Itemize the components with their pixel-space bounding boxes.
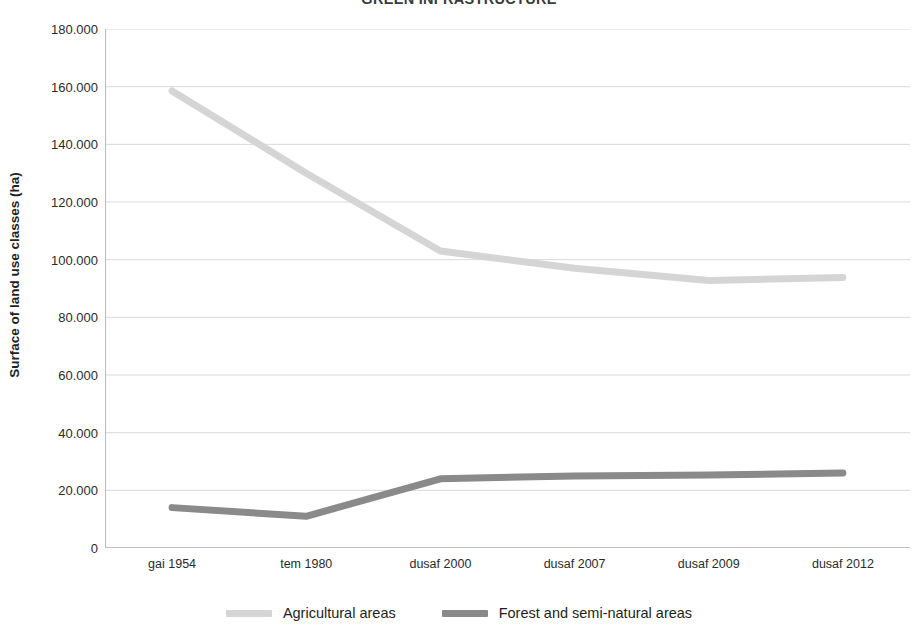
legend-swatch-icon	[442, 610, 488, 617]
legend-label: Forest and semi-natural areas	[499, 605, 692, 621]
legend-item-1[interactable]: Agricultural areas	[226, 605, 396, 621]
y-axis-tick-labels: 180.000160.000140.000120.000100.00080.00…	[6, 29, 98, 548]
series-lines	[172, 91, 843, 516]
axis-lines	[105, 29, 910, 548]
chart-title: GREEN INFRASTRUCTURE	[0, 0, 918, 7]
legend-label: Agricultural areas	[283, 605, 396, 621]
y-tick-label: 20.000	[12, 483, 98, 498]
y-tick-label: 120.000	[12, 195, 98, 210]
y-tick-label: 40.000	[12, 425, 98, 440]
chart-legend: Agricultural areasForest and semi-natura…	[0, 605, 918, 621]
y-tick-label: 60.000	[12, 368, 98, 383]
legend-item-2[interactable]: Forest and semi-natural areas	[442, 605, 692, 621]
series-line-2	[172, 473, 843, 516]
y-tick-label: 0	[12, 541, 98, 556]
green-infrastructure-chart: GREEN INFRASTRUCTURE Surface of land use…	[0, 0, 918, 636]
x-tick-label: dusaf 2012	[763, 557, 918, 571]
x-axis-tick-labels: gai 1954tem 1980dusaf 2000dusaf 2007dusa…	[105, 557, 910, 579]
y-tick-label: 100.000	[12, 252, 98, 267]
legend-swatch-icon	[226, 610, 272, 617]
y-tick-label: 80.000	[12, 310, 98, 325]
y-tick-label: 140.000	[12, 137, 98, 152]
y-tick-label: 180.000	[12, 22, 98, 37]
y-tick-label: 160.000	[12, 79, 98, 94]
plot-area	[105, 29, 910, 548]
series-line-1	[172, 91, 843, 280]
plot-svg	[105, 29, 910, 548]
